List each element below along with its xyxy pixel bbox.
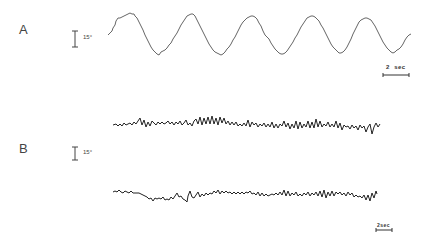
trace-b-upper — [113, 116, 380, 134]
trace-a-sinusoid — [108, 13, 411, 55]
time-scale-bar-a — [383, 73, 409, 77]
figure-canvas — [0, 0, 439, 248]
time-scale-bar-b — [376, 228, 392, 232]
amplitude-scale-bar-b — [72, 147, 78, 160]
amplitude-scale-bar-a — [72, 31, 78, 47]
trace-b-lower — [113, 190, 377, 202]
